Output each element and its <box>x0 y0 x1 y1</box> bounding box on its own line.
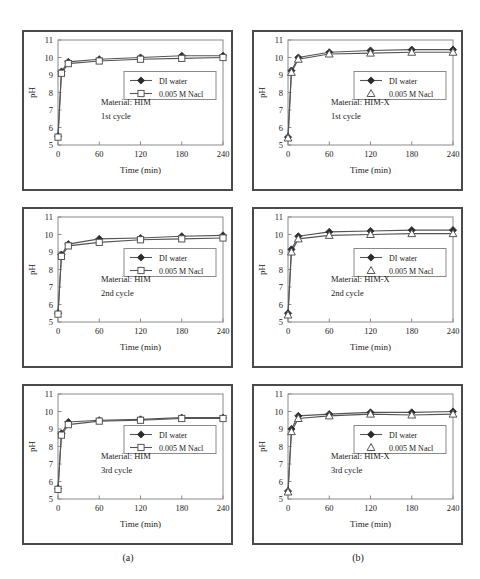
x-tick-label: 60 <box>95 149 104 159</box>
data-point-marker <box>65 243 71 249</box>
y-tick-label: 7 <box>49 459 53 469</box>
x-tick-label: 120 <box>134 149 147 159</box>
x-tick-label: 120 <box>364 149 377 159</box>
y-axis-title: pH <box>27 87 37 99</box>
y-tick-label: 8 <box>279 88 283 98</box>
legend-label-1: DI water <box>159 77 188 86</box>
data-point-marker <box>137 56 143 62</box>
data-point-marker <box>179 236 185 242</box>
y-axis-title: pH <box>257 264 267 276</box>
x-tick-label: 0 <box>56 326 60 336</box>
data-point-marker <box>96 239 102 245</box>
y-tick-label: 6 <box>49 300 53 310</box>
x-tick-label: 0 <box>286 326 290 336</box>
x-tick-label: 240 <box>217 149 230 159</box>
legend-label-2: 0.005 M Nacl <box>159 444 204 453</box>
data-point-marker <box>137 417 143 423</box>
x-axis-title: Time (min) <box>350 519 391 529</box>
x-tick-label: 180 <box>405 503 418 513</box>
data-point-marker <box>55 311 61 317</box>
y-tick-label: 8 <box>279 442 283 452</box>
annotation-1: Material: HIM <box>101 451 151 461</box>
x-tick-label: 60 <box>325 326 334 336</box>
data-point-marker <box>65 422 71 428</box>
col-b-label: (b) <box>338 552 378 563</box>
y-tick-label: 5 <box>279 494 283 504</box>
data-point-marker <box>220 235 226 241</box>
chart-svg-him-3rd: 567891011060120180240Time (min)pHDI wate… <box>24 386 231 543</box>
legend-label-1: DI water <box>389 431 418 440</box>
x-axis-title: Time (min) <box>120 519 161 529</box>
chart-panel-himx-3rd: 567891011060120180240Time (min)pHDI wate… <box>252 384 463 545</box>
y-tick-label: 10 <box>275 407 284 417</box>
y-tick-label: 11 <box>275 389 283 399</box>
y-axis-title: pH <box>27 441 37 453</box>
chart-panel-him-1st: 567891011060120180240Time (min)pHDI wate… <box>22 30 233 191</box>
x-tick-label: 240 <box>447 503 460 513</box>
chart-svg-him-1st: 567891011060120180240Time (min)pHDI wate… <box>24 32 231 189</box>
x-tick-label: 180 <box>175 149 188 159</box>
chart-panel-him-3rd: 567891011060120180240Time (min)pHDI wate… <box>22 384 233 545</box>
annotation-1: Material: HIM-X <box>331 451 390 461</box>
y-tick-label: 6 <box>279 300 283 310</box>
y-tick-label: 11 <box>45 389 53 399</box>
figure-root: 567891011060120180240Time (min)pHDI wate… <box>0 0 480 579</box>
annotation-1: Material: HIM-X <box>331 274 390 284</box>
y-axis-title: pH <box>257 87 267 99</box>
data-point-marker <box>138 444 144 450</box>
data-point-marker <box>179 55 185 61</box>
x-tick-label: 120 <box>134 503 147 513</box>
y-tick-label: 7 <box>279 459 283 469</box>
y-tick-label: 9 <box>279 70 283 80</box>
y-tick-label: 10 <box>275 53 284 63</box>
x-tick-label: 240 <box>217 326 230 336</box>
y-tick-label: 8 <box>279 265 283 275</box>
data-point-marker <box>58 432 64 438</box>
y-tick-label: 11 <box>45 212 53 222</box>
annotation-1: Material: HIM-X <box>331 97 390 107</box>
x-axis-title: Time (min) <box>350 342 391 352</box>
annotation-2: 3rd cycle <box>101 465 133 475</box>
y-tick-label: 9 <box>49 70 53 80</box>
x-tick-label: 60 <box>95 503 104 513</box>
x-tick-label: 60 <box>95 326 104 336</box>
x-axis-title: Time (min) <box>120 165 161 175</box>
x-tick-label: 180 <box>405 149 418 159</box>
data-point-marker <box>220 415 226 421</box>
data-point-marker <box>138 90 144 96</box>
y-tick-label: 11 <box>275 35 283 45</box>
annotation-2: 1st cycle <box>331 111 361 121</box>
data-point-marker <box>96 58 102 64</box>
annotation-2: 3rd cycle <box>331 465 363 475</box>
x-tick-label: 240 <box>447 149 460 159</box>
x-tick-label: 180 <box>175 326 188 336</box>
y-tick-label: 7 <box>49 105 53 115</box>
y-tick-label: 6 <box>49 477 53 487</box>
x-tick-label: 120 <box>134 326 147 336</box>
y-tick-label: 5 <box>279 317 283 327</box>
x-tick-label: 60 <box>325 503 334 513</box>
chart-svg-him-2nd: 567891011060120180240Time (min)pHDI wate… <box>24 209 231 366</box>
y-tick-label: 8 <box>49 442 53 452</box>
chart-svg-himx-2nd: 567891011060120180240Time (min)pHDI wate… <box>254 209 461 366</box>
legend-label-1: DI water <box>159 431 188 440</box>
col-a-label: (a) <box>108 552 148 563</box>
data-point-marker <box>96 418 102 424</box>
annotation-1: Material: HIM <box>101 274 151 284</box>
legend-label-2: 0.005 M Nacl <box>389 90 434 99</box>
y-tick-label: 7 <box>279 282 283 292</box>
annotation-2: 2nd cycle <box>101 288 134 298</box>
annotation-2: 2nd cycle <box>331 288 364 298</box>
y-tick-label: 11 <box>275 212 283 222</box>
x-tick-label: 0 <box>56 503 60 513</box>
x-axis-title: Time (min) <box>120 342 161 352</box>
y-tick-label: 8 <box>49 88 53 98</box>
annotation-2: 1st cycle <box>101 111 131 121</box>
legend-label-1: DI water <box>389 254 418 263</box>
y-axis-title: pH <box>257 441 267 453</box>
x-tick-label: 120 <box>364 503 377 513</box>
x-tick-label: 240 <box>447 326 460 336</box>
annotation-1: Material: HIM <box>101 97 151 107</box>
y-tick-label: 5 <box>49 317 53 327</box>
data-point-marker <box>55 134 61 140</box>
